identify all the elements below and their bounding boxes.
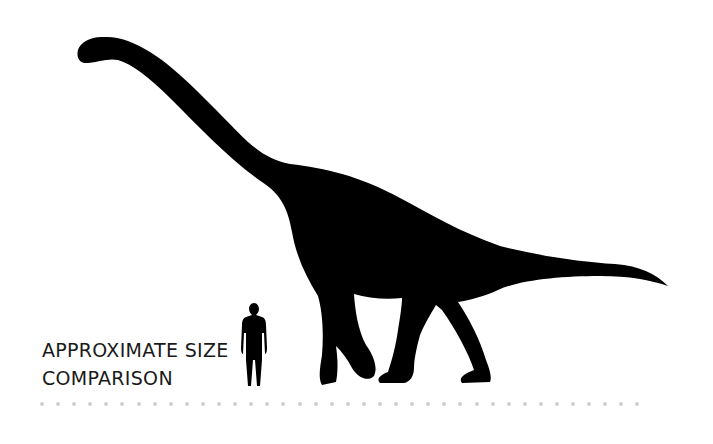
ground-dot xyxy=(169,402,173,406)
ground-dot xyxy=(426,402,430,406)
caption-line-2: COMPARISON xyxy=(42,364,229,392)
size-comparison-caption: APPROXIMATE SIZE COMPARISON xyxy=(42,336,229,392)
ground-dot xyxy=(539,402,543,406)
ground-dot xyxy=(298,402,302,406)
ground-dot xyxy=(587,402,591,406)
ground-dot xyxy=(104,402,108,406)
ground-dot xyxy=(571,402,575,406)
ground-dot xyxy=(635,402,639,406)
ground-dot xyxy=(346,402,350,406)
ground-dot xyxy=(394,402,398,406)
ground-dot xyxy=(555,402,559,406)
ground-dot xyxy=(281,402,285,406)
ground-dot xyxy=(603,402,607,406)
ground-dot xyxy=(475,402,479,406)
ground-dot xyxy=(72,402,76,406)
ground-dot xyxy=(249,402,253,406)
ground-dot xyxy=(217,402,221,406)
ground-dot xyxy=(233,402,237,406)
ground-dot xyxy=(442,402,446,406)
ground-dot xyxy=(120,402,124,406)
ground-dot xyxy=(185,402,189,406)
ground-dot xyxy=(330,402,334,406)
ground-dot xyxy=(362,402,366,406)
ground-dot xyxy=(378,402,382,406)
ground-dot xyxy=(619,402,623,406)
ground-dot xyxy=(458,402,462,406)
ground-dotted-line xyxy=(40,402,640,408)
ground-dot xyxy=(265,402,269,406)
ground-dot xyxy=(314,402,318,406)
ground-dot xyxy=(56,402,60,406)
ground-dot xyxy=(88,402,92,406)
ground-dot xyxy=(201,402,205,406)
ground-dot xyxy=(137,402,141,406)
ground-dot xyxy=(410,402,414,406)
ground-dot xyxy=(507,402,511,406)
ground-dot xyxy=(153,402,157,406)
size-comparison-diagram: APPROXIMATE SIZE COMPARISON xyxy=(0,0,713,444)
caption-line-1: APPROXIMATE SIZE xyxy=(42,336,229,364)
ground-dot xyxy=(40,402,44,406)
ground-dot xyxy=(491,402,495,406)
ground-dot xyxy=(523,402,527,406)
